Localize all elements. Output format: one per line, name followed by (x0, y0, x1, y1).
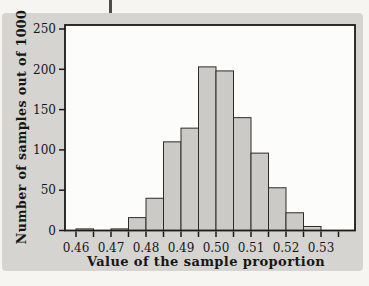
x-axis-ticks: 0.460.470.480.490.500.510.520.53 (63, 232, 339, 255)
bar-bin-9 (234, 118, 252, 231)
bar-bin-3 (129, 218, 147, 231)
bar-bin-8 (216, 71, 234, 231)
x-tick-label-0.47: 0.47 (98, 241, 125, 255)
y-axis-label: Number of samples out of 1000 (14, 10, 29, 244)
x-tick-label-0.46: 0.46 (63, 241, 90, 255)
y-tick-label-100: 100 (33, 143, 56, 157)
y-tick-label-50: 50 (41, 183, 56, 197)
x-tick-label-0.49: 0.49 (168, 241, 195, 255)
histogram-chart: 0.460.470.480.490.500.510.520.53 0501001… (0, 0, 369, 286)
y-axis-ticks: 050100150200250 (33, 22, 65, 238)
x-tick-label-0.52: 0.52 (273, 241, 300, 255)
bar-bin-11 (269, 188, 287, 231)
bar-bin-6 (181, 128, 199, 230)
x-tick-label-0.51: 0.51 (238, 241, 265, 255)
y-tick-label-200: 200 (33, 63, 56, 77)
x-tick-label-0.50: 0.50 (203, 241, 230, 255)
bar-bin-12 (286, 213, 304, 231)
x-axis-label: Value of the sample proportion (86, 254, 325, 269)
y-tick-label-150: 150 (33, 103, 56, 117)
x-tick-label-0.48: 0.48 (133, 241, 160, 255)
bar-bin-4 (146, 198, 164, 230)
x-tick-label-0.53: 0.53 (308, 241, 335, 255)
y-tick-label-250: 250 (33, 22, 56, 36)
bar-bin-10 (251, 153, 269, 230)
y-tick-label-0: 0 (48, 224, 56, 238)
bar-bin-5 (164, 142, 182, 231)
bar-bin-7 (199, 67, 217, 231)
